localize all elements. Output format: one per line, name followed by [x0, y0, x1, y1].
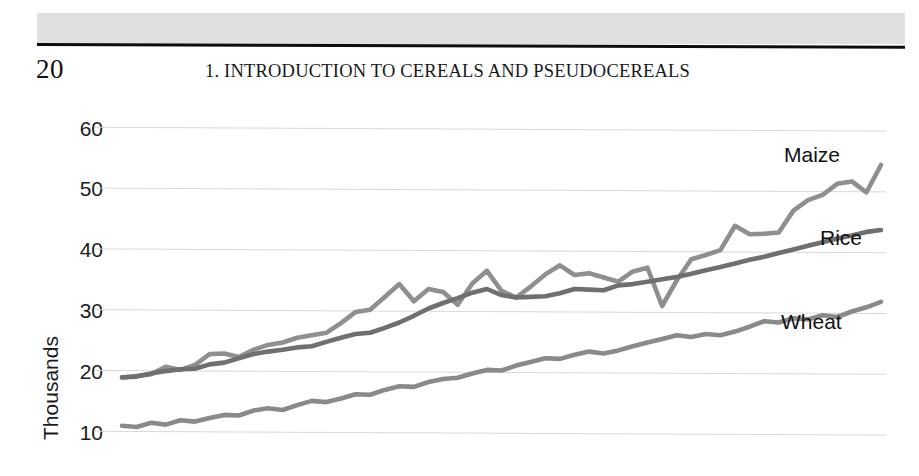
- gridline: [95, 310, 886, 314]
- document-page: 20 1. INTRODUCTION TO CEREALS AND PSEUDO…: [0, 0, 919, 476]
- series-line-maize: [122, 165, 881, 378]
- gridline: [95, 249, 886, 253]
- chart-plot-area: [0, 96, 919, 476]
- header-gray-band: [37, 13, 905, 44]
- running-head-title: 1. INTRODUCTION TO CEREALS AND PSEUDOCER…: [205, 60, 690, 82]
- series-line-wheat: [122, 302, 881, 427]
- series-label-rice: Rice: [820, 227, 862, 248]
- page-number: 20: [36, 54, 64, 84]
- line-chart-figure: Thousands 605040302010 MaizeRiceWheat: [0, 96, 919, 476]
- gridline: [95, 127, 886, 131]
- series-label-maize: Maize: [784, 144, 840, 165]
- gridline: [95, 431, 886, 435]
- series-label-wheat: Wheat: [781, 311, 842, 332]
- gridline: [95, 188, 886, 192]
